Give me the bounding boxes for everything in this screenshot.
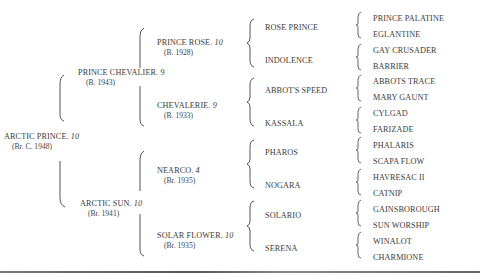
great-great-grandparent: EGLANTINE	[373, 30, 420, 40]
great-great-grandparent: WINALOT	[373, 237, 412, 247]
brace-icon	[138, 213, 146, 257]
dam-rating: 10	[134, 199, 142, 208]
curly-brace-icon	[355, 168, 363, 196]
sire-name: PRINCE CHEVALIER. 9	[78, 68, 165, 78]
brace-icon	[58, 160, 66, 208]
grandparent-name: NEARCO. 4	[157, 166, 200, 176]
grandparent-rating: 10	[215, 38, 223, 47]
great-grandparent: ROSE PRINCE	[265, 23, 318, 33]
sire-rating: 9	[160, 68, 164, 77]
curly-brace-icon	[246, 77, 256, 127]
curly-brace-icon	[355, 43, 363, 71]
sire-born: (B. 1943)	[86, 78, 115, 87]
curly-brace-icon	[246, 139, 256, 189]
great-great-grandparent: SUN WORSHIP	[373, 221, 429, 231]
curly-brace-icon	[355, 106, 363, 134]
great-great-grandparent: SCAPA FLOW	[373, 157, 424, 167]
curly-brace-icon	[246, 200, 256, 252]
great-grandparent: SOLARIO	[265, 211, 301, 221]
grandparent-born: (Br. 1935)	[164, 241, 195, 250]
great-grandparent: SERENA	[265, 244, 297, 254]
bottom-rule	[0, 271, 480, 273]
great-grandparent: NOGARA	[265, 181, 301, 191]
great-great-grandparent: GAINSBOROUGH	[373, 205, 440, 215]
grandparent-name-text: SOLAR FLOWER.	[157, 231, 223, 240]
grandparent-born: (B. 1928)	[164, 48, 193, 57]
subject-born: (Br. C. 1948)	[12, 142, 52, 151]
grandparent-rating: 10	[225, 231, 233, 240]
great-great-grandparent: CYLGAD	[373, 109, 408, 119]
sire-name-text: PRINCE CHEVALIER.	[78, 68, 158, 77]
great-grandparent: ABBOT'S SPEED	[265, 86, 327, 96]
great-great-grandparent: CATNIP	[373, 189, 402, 199]
great-grandparent: INDOLENCE	[265, 56, 313, 66]
curly-brace-icon	[355, 11, 363, 39]
great-great-grandparent: PRINCE PALATINE	[373, 14, 444, 24]
great-great-grandparent: BARRIER	[373, 62, 409, 72]
brace-icon	[138, 150, 146, 192]
curly-brace-icon	[355, 136, 363, 164]
subject-rating: 10	[71, 132, 79, 141]
great-great-grandparent: GAY CRUSADER	[373, 46, 437, 56]
grandparent-name-text: PRINCE ROSE.	[157, 38, 212, 47]
great-grandparent: PHAROS	[265, 148, 298, 158]
grandparent-name: CHEVALERIE. 9	[157, 101, 217, 111]
grandparent-rating: 4	[196, 166, 200, 175]
great-great-grandparent: MARY GAUNT	[373, 93, 429, 103]
grandparent-name: SOLAR FLOWER. 10	[157, 231, 233, 241]
subject-name-text: ARCTIC PRINCE.	[4, 132, 69, 141]
great-grandparent: KASSALA	[265, 119, 303, 129]
curly-brace-icon	[355, 231, 363, 259]
grandparent-name-text: CHEVALERIE.	[157, 101, 210, 110]
grandparent-born: (Br. 1935)	[164, 176, 195, 185]
dam-name-text: ARCTIC SUN.	[80, 199, 132, 208]
brace-icon	[58, 74, 66, 122]
grandparent-name: PRINCE ROSE. 10	[157, 38, 223, 48]
subject-name: ARCTIC PRINCE. 10	[4, 132, 79, 142]
curly-brace-icon	[355, 74, 363, 102]
great-great-grandparent: PHALARIS	[373, 141, 414, 151]
brace-icon	[138, 85, 146, 127]
dam-born: (Br. 1941)	[88, 209, 119, 218]
great-great-grandparent: ABBOTS TRACE	[373, 77, 435, 87]
great-great-grandparent: HAVRESAC II	[373, 173, 425, 183]
curly-brace-icon	[355, 199, 363, 227]
brace-icon	[138, 27, 146, 69]
great-great-grandparent: FARIZADE	[373, 125, 414, 135]
grandparent-rating: 9	[213, 101, 217, 110]
grandparent-born: (B. 1933)	[164, 111, 193, 120]
curly-brace-icon	[246, 18, 256, 68]
great-great-grandparent: CHARMIONE	[373, 253, 423, 263]
grandparent-name-text: NEARCO.	[157, 166, 193, 175]
dam-name: ARCTIC SUN. 10	[80, 199, 142, 209]
